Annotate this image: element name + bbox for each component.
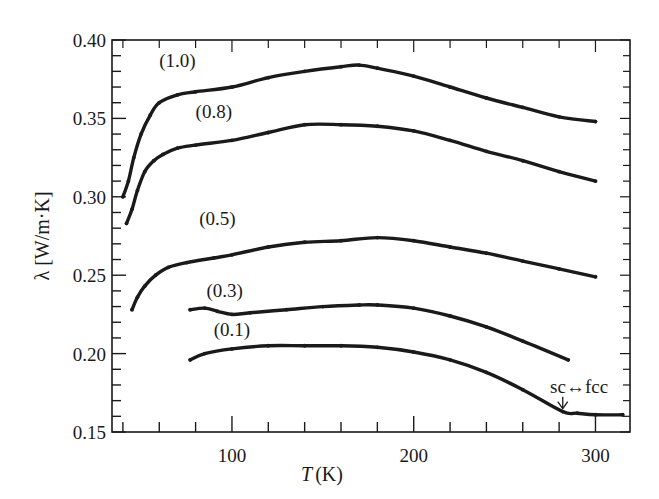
series-1-0-point: [194, 90, 198, 94]
series-1-0-point: [412, 74, 416, 78]
y-tick-label: 0.30: [73, 187, 106, 208]
series-0-8-point: [161, 153, 165, 157]
series-0-5-point: [136, 295, 140, 299]
series-0-3-label: (0.3): [207, 280, 243, 302]
y-axis-ticks: 0.150.200.250.300.350.40: [73, 30, 630, 443]
series-0-3-point: [521, 339, 525, 343]
series-0-3-point: [230, 313, 234, 317]
series-0-8-point: [594, 179, 598, 183]
series-0-3-point: [412, 306, 416, 310]
series-1-0-point: [148, 113, 152, 117]
series-0-3-point: [203, 306, 207, 310]
series-0-3-point: [321, 305, 325, 309]
series-1-0-label: (1.0): [159, 50, 195, 72]
series-0-8-point: [375, 124, 379, 128]
x-tick-label: 200: [399, 445, 428, 466]
series-0-1-point: [266, 344, 270, 348]
series-0-1-label: (0.1): [214, 319, 250, 341]
series-0-8-point: [194, 143, 198, 147]
x-axis-title-unit: (K): [315, 463, 343, 486]
series-0-3-point: [285, 308, 289, 312]
series-0-5-point: [339, 239, 343, 243]
series-1-0-point: [357, 63, 361, 67]
series-0-1-point: [594, 413, 598, 417]
series-0-3-point: [357, 303, 361, 307]
series-0-3-point: [375, 303, 379, 307]
series-0-5-point: [485, 251, 489, 255]
series-0-8-line: [127, 124, 596, 223]
series-labels: (1.0)(0.8)(0.5)(0.3)(0.1): [159, 50, 250, 342]
series-1-0-point: [448, 85, 452, 89]
y-tick-label: 0.25: [73, 265, 106, 286]
y-tick-label: 0.40: [73, 30, 106, 51]
series-1-0-point: [126, 179, 130, 183]
x-tick-label: 300: [581, 445, 610, 466]
series-0-1-point: [412, 350, 416, 354]
series-0-5-point: [166, 265, 170, 269]
series-0-1-point: [575, 411, 579, 415]
series-1-0-point: [485, 96, 489, 100]
series-0-1-point: [230, 347, 234, 351]
series-1-0-point: [157, 101, 161, 105]
y-tick-label: 0.35: [73, 108, 106, 129]
series-0-1-point: [521, 388, 525, 392]
axes: [112, 40, 630, 432]
series-0-5-point: [594, 275, 598, 279]
x-axis-title-variable: T: [301, 463, 314, 485]
series-1-0-point: [375, 66, 379, 70]
thermal-conductivity-chart: 0.150.200.250.300.350.40 100200300 (1.0)…: [0, 0, 659, 499]
plot-frame: [112, 40, 630, 432]
series-1-0-point: [557, 115, 561, 119]
y-tick-label: 0.20: [73, 344, 106, 365]
series-0-8-point: [136, 189, 140, 193]
series-0-3-point: [216, 309, 220, 313]
series-1-0-point: [230, 85, 234, 89]
y-tick-label: 0.15: [73, 422, 106, 443]
series-0-5-point: [412, 239, 416, 243]
series-0-5-point: [266, 245, 270, 249]
series-0-8-point: [143, 170, 147, 174]
x-axis-title: T(K): [301, 463, 343, 486]
series-0-5-point: [375, 236, 379, 240]
series-0-5-label: (0.5): [199, 208, 235, 230]
series-0-8-point: [339, 123, 343, 127]
series-0-8-point: [266, 131, 270, 135]
series-0-5-point: [185, 261, 189, 265]
series-0-1-point: [621, 413, 625, 417]
series-0-5-point: [303, 240, 307, 244]
series-0-5-point: [557, 267, 561, 271]
series-0-1-point: [188, 358, 192, 362]
series-0-8-point: [448, 138, 452, 142]
series-0-5-point: [212, 256, 216, 260]
phase-transition-annotation: sc↔fcc: [550, 376, 608, 397]
series-0-8-point: [130, 207, 134, 211]
series-0-5-point: [448, 245, 452, 249]
series-0-8-label: (0.8): [196, 101, 232, 123]
series-0-8-point: [152, 159, 156, 163]
series-0-8-point: [521, 159, 525, 163]
series-1-0-point: [139, 132, 143, 136]
series-0-3-point: [485, 325, 489, 329]
series-0-1-point: [203, 352, 207, 356]
series-1-0-point: [266, 76, 270, 80]
series-0-8-point: [303, 123, 307, 127]
series-0-3-point: [448, 314, 452, 318]
series-0-1-point: [485, 371, 489, 375]
series-0-5-point: [154, 273, 158, 277]
series-1-0-point: [521, 106, 525, 110]
series-0-8-point: [230, 138, 234, 142]
y-axis-title: λ [W/m·K]: [31, 191, 53, 280]
series-1-0-point: [303, 69, 307, 73]
x-tick-label: 100: [218, 445, 247, 466]
series-1-0-point: [594, 120, 598, 124]
series-1-0-point: [339, 65, 343, 69]
series-1-0-line: [123, 65, 596, 197]
series-1-0-point: [132, 156, 136, 160]
series-1-0-point: [121, 195, 125, 199]
series-0-5-point: [130, 308, 134, 312]
series-0-1-point: [339, 344, 343, 348]
series-0-8-point: [412, 129, 416, 133]
series-1-0-point: [176, 93, 180, 97]
series-0-1-point: [561, 410, 565, 414]
series-0-5-point: [143, 284, 147, 288]
